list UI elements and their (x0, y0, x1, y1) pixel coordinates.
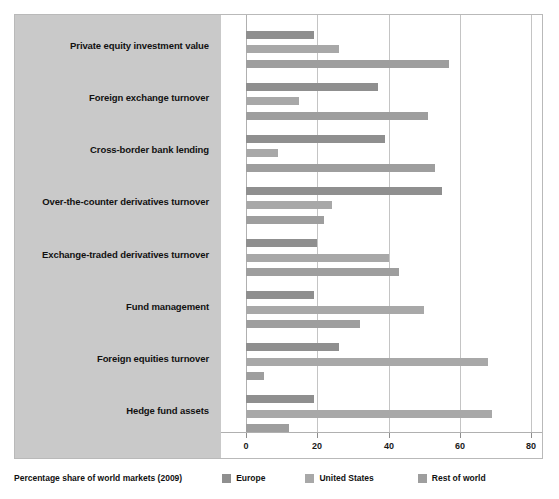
bar-europe (246, 395, 314, 403)
bar-united-states (246, 306, 424, 314)
gridline-80 (531, 15, 532, 432)
category-label-panel: Private equity investment valueForeign e… (15, 15, 221, 458)
bar-rest-of-world (246, 216, 324, 224)
bar-united-states (246, 201, 332, 209)
tick-mark-0 (246, 433, 247, 438)
bar-rest-of-world (246, 268, 399, 276)
bar-rest-of-world (246, 372, 264, 380)
bar-europe (246, 83, 378, 91)
category-label: Exchange-traded derivatives turnover (42, 249, 209, 260)
x-tick-label-80: 80 (526, 441, 536, 451)
x-tick-label-40: 40 (384, 441, 394, 451)
bar-united-states (246, 254, 389, 262)
plot-area: 020406080 (221, 15, 542, 458)
bar-rest-of-world (246, 424, 289, 432)
bar-united-states (246, 358, 488, 366)
bar-united-states (246, 149, 278, 157)
legend-swatch-united-states (305, 474, 314, 483)
bar-united-states (246, 97, 299, 105)
bar-rest-of-world (246, 60, 449, 68)
bar-europe (246, 31, 314, 39)
category-label: Over-the-counter derivatives turnover (42, 196, 209, 207)
gridline-40 (389, 15, 390, 432)
category-label: Private equity investment value (70, 40, 209, 51)
category-label: Fund management (126, 301, 209, 312)
x-tick-label-20: 20 (312, 441, 322, 451)
category-label: Foreign exchange turnover (89, 92, 209, 103)
bar-rest-of-world (246, 320, 360, 328)
chart-legend: Percentage share of world markets (2009)… (14, 470, 543, 486)
bar-united-states (246, 45, 339, 53)
legend-label-europe: Europe (236, 473, 265, 483)
bar-rest-of-world (246, 112, 428, 120)
x-tick-label-60: 60 (455, 441, 465, 451)
bar-europe (246, 187, 442, 195)
gridline-60 (460, 15, 461, 432)
tick-mark-20 (317, 433, 318, 438)
legend-swatch-rest-of-world (418, 474, 427, 483)
bar-europe (246, 343, 339, 351)
bar-europe (246, 135, 385, 143)
legend-caption: Percentage share of world markets (2009) (14, 473, 182, 483)
tick-mark-60 (460, 433, 461, 438)
bar-europe (246, 239, 317, 247)
category-label: Cross-border bank lending (90, 144, 209, 155)
chart-frame: Private equity investment valueForeign e… (14, 14, 543, 459)
tick-mark-40 (389, 433, 390, 438)
bar-europe (246, 291, 314, 299)
category-label: Hedge fund assets (126, 405, 209, 416)
legend-label-united-states: United States (319, 473, 373, 483)
tick-mark-80 (531, 433, 532, 438)
bar-rest-of-world (246, 164, 435, 172)
legend-swatch-europe (222, 474, 231, 483)
category-label: Foreign equities turnover (97, 353, 209, 364)
x-axis-line (221, 432, 542, 433)
bar-united-states (246, 410, 492, 418)
legend-label-rest-of-world: Rest of world (432, 473, 486, 483)
x-tick-label-0: 0 (243, 441, 248, 451)
